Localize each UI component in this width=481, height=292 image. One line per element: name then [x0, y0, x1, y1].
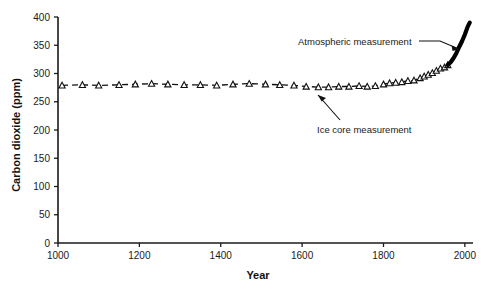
data-point-marker	[291, 82, 297, 88]
x-axis: 100012001400160018002000	[47, 243, 477, 261]
annotation-atmospheric-label: Atmospheric measurement	[298, 36, 412, 47]
ice-core-series	[59, 62, 451, 90]
x-tick-label: 2000	[454, 250, 477, 261]
data-point-marker	[364, 83, 370, 89]
data-point-marker	[148, 81, 154, 87]
x-axis-title: Year	[246, 269, 270, 281]
data-point-marker	[79, 82, 85, 88]
data-point-marker	[346, 83, 352, 89]
data-point-marker	[277, 82, 283, 88]
data-point-marker	[325, 84, 331, 90]
data-point-marker	[165, 81, 171, 87]
x-tick-label: 1800	[372, 250, 395, 261]
data-point-marker	[393, 79, 399, 85]
data-point-marker	[405, 78, 411, 84]
chart-canvas: 050100150200250300350400 100012001400160…	[0, 0, 481, 292]
data-point-marker	[411, 77, 417, 83]
data-point-marker	[246, 81, 252, 87]
atmospheric-series	[448, 23, 470, 65]
y-tick-label: 0	[44, 238, 50, 249]
data-point-marker	[303, 83, 309, 89]
y-tick-label: 400	[33, 12, 50, 23]
data-point-marker	[96, 82, 102, 88]
y-tick-label: 200	[33, 125, 50, 136]
y-axis-ticks: 050100150200250300350400	[33, 12, 58, 249]
data-point-marker	[181, 82, 187, 88]
data-point-marker	[315, 84, 321, 90]
data-point-marker	[386, 80, 392, 86]
data-point-marker	[372, 83, 378, 89]
y-tick-label: 300	[33, 68, 50, 79]
co2-concentration-chart: 050100150200250300350400 100012001400160…	[0, 0, 481, 292]
y-tick-label: 50	[39, 209, 51, 220]
y-tick-label: 100	[33, 181, 50, 192]
data-point-marker	[132, 81, 138, 87]
data-point-marker	[399, 79, 405, 85]
data-point-marker	[380, 81, 386, 87]
atmospheric-line	[448, 23, 470, 65]
x-tick-label: 1200	[128, 250, 151, 261]
annotation-icecore-arrowhead	[318, 95, 326, 102]
data-point-marker	[356, 83, 362, 89]
x-tick-label: 1600	[291, 250, 314, 261]
y-tick-label: 250	[33, 96, 50, 107]
data-point-marker	[59, 82, 65, 88]
y-axis-title: Carbon dioxide (ppm)	[10, 78, 22, 192]
annotation-icecore: Ice core measurement	[317, 95, 412, 135]
data-point-marker	[197, 82, 203, 88]
annotation-icecore-label: Ice core measurement	[317, 124, 412, 135]
data-point-marker	[214, 82, 220, 88]
x-axis-ticks: 100012001400160018002000	[47, 243, 477, 261]
x-tick-label: 1400	[210, 250, 233, 261]
annotation-atmospheric: Atmospheric measurement	[298, 36, 459, 51]
data-point-marker	[230, 81, 236, 87]
y-axis: 050100150200250300350400	[33, 12, 58, 249]
ice-core-markers	[59, 62, 451, 90]
x-tick-label: 1000	[47, 250, 70, 261]
data-point-marker	[336, 83, 342, 89]
y-tick-label: 150	[33, 153, 50, 164]
data-point-marker	[116, 82, 122, 88]
data-point-marker	[262, 81, 268, 87]
y-tick-label: 350	[33, 40, 50, 51]
